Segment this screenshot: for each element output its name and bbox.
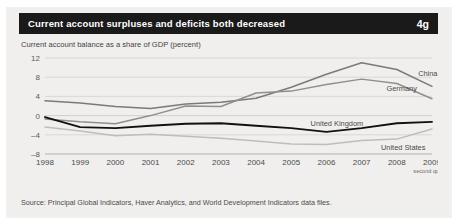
x-tick-note: second quarter: [413, 168, 438, 174]
x-tick-2002: 2002: [177, 158, 195, 167]
x-tick-2007: 2007: [353, 158, 371, 167]
x-tick-2001: 2001: [142, 158, 160, 167]
series-label-germany: Germany: [387, 84, 418, 93]
x-tick-2003: 2003: [212, 158, 230, 167]
line-chart: 12840–4–8 199819992000200120022003200420…: [19, 52, 438, 180]
page-margin-bottom: [0, 218, 457, 224]
source-note: Source: Principal Global Indicators, Hav…: [21, 198, 332, 207]
page-margin-right: [452, 0, 457, 224]
series-label-china: China: [418, 69, 438, 78]
page-margin-left: [0, 0, 6, 224]
figure-root: Current account surpluses and deficits b…: [0, 0, 457, 224]
x-tick-1999: 1999: [71, 158, 89, 167]
x-tick-2009: 2009: [423, 158, 438, 167]
page-margin-top: [0, 0, 457, 7]
x-tick-2006: 2006: [318, 158, 336, 167]
x-tick-2005: 2005: [282, 158, 300, 167]
series-line-china: [45, 63, 432, 109]
series-line-germany: [45, 79, 432, 124]
chart-subtitle: Current account balance as a share of GD…: [21, 40, 201, 49]
panel-title-bar: Current account surpluses and deficits b…: [19, 13, 438, 34]
y-tick-8: 8: [36, 73, 41, 82]
x-tick-1998: 1998: [36, 158, 54, 167]
x-tick-2000: 2000: [106, 158, 124, 167]
plot-area: 12840–4–8 199819992000200120022003200420…: [19, 52, 438, 180]
panel-title: Current account surpluses and deficits b…: [28, 18, 285, 29]
x-tick-2004: 2004: [247, 158, 265, 167]
series-line-united-kingdom: [45, 117, 432, 132]
y-tick--4: –4: [31, 131, 40, 140]
y-axis-labels: 12840–4–8: [31, 54, 40, 159]
y-tick-0: 0: [36, 112, 41, 121]
series-label-united-kingdom: United Kingdom: [311, 119, 364, 128]
y-tick-12: 12: [31, 54, 40, 63]
panel-badge: 4g: [417, 18, 429, 30]
series-label-united-states: United States: [381, 143, 426, 152]
series-layer: [45, 63, 432, 145]
x-axis-labels: 1998199920002001200220032004200520062007…: [36, 158, 438, 174]
y-tick-4: 4: [36, 92, 41, 101]
chart-panel: Current account surpluses and deficits b…: [7, 8, 450, 216]
series-line-united-states: [45, 127, 432, 144]
x-tick-2008: 2008: [388, 158, 406, 167]
